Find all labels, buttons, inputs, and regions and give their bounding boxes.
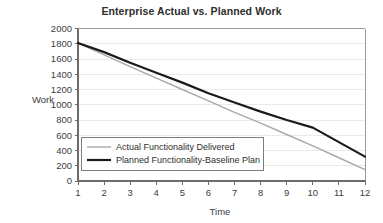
x-tick-label: 5 bbox=[180, 187, 185, 198]
y-tick-label: 1600 bbox=[51, 53, 72, 64]
x-tick-label: 3 bbox=[128, 187, 133, 198]
x-tick-label: 10 bbox=[308, 187, 319, 198]
x-tick-label: 11 bbox=[334, 187, 344, 198]
y-axis-ticks: 0200400600800100012001400160018002000 bbox=[51, 23, 78, 187]
x-tick-label: 12 bbox=[360, 187, 371, 198]
chart-plot: 0200400600800100012001400160018002000 12… bbox=[0, 0, 383, 223]
y-tick-label: 1000 bbox=[51, 99, 72, 110]
x-tick-label: 6 bbox=[206, 187, 211, 198]
y-tick-label: 200 bbox=[56, 160, 72, 171]
x-tick-label: 1 bbox=[75, 187, 80, 198]
x-tick-label: 8 bbox=[258, 187, 263, 198]
x-axis-label: Time bbox=[210, 206, 231, 217]
y-tick-label: 800 bbox=[56, 114, 72, 125]
x-tick-label: 4 bbox=[154, 187, 159, 198]
y-tick-label: 1400 bbox=[51, 69, 72, 80]
y-tick-label: 1200 bbox=[51, 84, 72, 95]
chart-container: Enterprise Actual vs. Planned Work 02004… bbox=[0, 0, 383, 223]
chart-legend: Actual Functionality DeliveredPlanned Fu… bbox=[81, 137, 263, 170]
y-tick-label: 2000 bbox=[51, 23, 72, 34]
y-tick-label: 1800 bbox=[51, 38, 72, 49]
x-axis-ticks: 123456789101112 bbox=[75, 181, 370, 198]
y-axis-label: Work bbox=[32, 94, 54, 105]
y-tick-label: 0 bbox=[67, 175, 72, 186]
legend-label: Actual Functionality Delivered bbox=[116, 142, 235, 152]
legend-label: Planned Functionality-Baseline Plan bbox=[116, 155, 260, 165]
y-tick-label: 400 bbox=[56, 145, 72, 156]
x-tick-label: 9 bbox=[284, 187, 289, 198]
x-tick-label: 2 bbox=[101, 187, 106, 198]
x-tick-label: 7 bbox=[232, 187, 237, 198]
y-tick-label: 600 bbox=[56, 130, 72, 141]
